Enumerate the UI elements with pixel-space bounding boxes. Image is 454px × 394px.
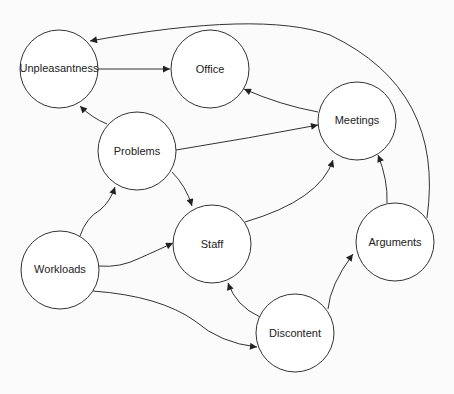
svg-text:Discontent: Discontent (269, 327, 321, 339)
edge-problems-staff (172, 172, 192, 206)
edge-arguments-meetings (378, 155, 387, 203)
edge-problems-unpleasantness (80, 106, 107, 124)
node-workloads: Workloads (21, 231, 99, 309)
svg-text:Unpleasantness: Unpleasantness (20, 62, 99, 74)
edge-discontent-staff (228, 283, 260, 317)
node-meetings: Meetings (318, 82, 396, 160)
svg-text:Staff: Staff (201, 238, 224, 250)
edge-staff-meetings (245, 160, 333, 222)
diagram-canvas: Unpleasantness Office Meetings Problems … (0, 0, 454, 394)
edge-meetings-office (244, 89, 318, 112)
node-problems: Problems (98, 112, 176, 190)
svg-text:Workloads: Workloads (34, 263, 86, 275)
node-discontent: Discontent (256, 294, 334, 372)
edge-workloads-discontent (93, 291, 257, 347)
svg-text:Arguments: Arguments (368, 236, 422, 248)
node-arguments: Arguments (356, 203, 434, 281)
svg-text:Meetings: Meetings (335, 114, 380, 126)
graph-svg: Unpleasantness Office Meetings Problems … (0, 0, 454, 394)
node-unpleasantness: Unpleasantness (20, 30, 99, 108)
edge-discontent-arguments (328, 254, 353, 309)
edge-workloads-problems (80, 187, 115, 236)
edge-workloads-staff (99, 243, 173, 266)
node-staff: Staff (173, 205, 251, 283)
svg-text:Office: Office (196, 63, 225, 75)
node-office: Office (171, 30, 249, 108)
svg-text:Problems: Problems (114, 145, 161, 157)
edge-problems-meetings (176, 125, 318, 150)
